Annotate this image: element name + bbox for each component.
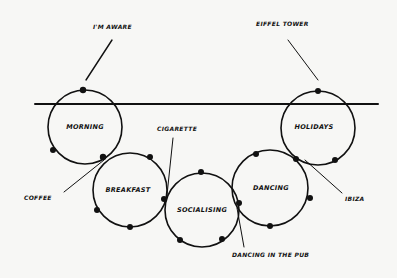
dancing-in-the-pub-label: DANCING IN THE PUB — [232, 251, 309, 258]
knot-icon — [94, 207, 100, 213]
coffee-pointer — [64, 160, 104, 192]
socialising-label: SOCIALISING — [177, 206, 228, 214]
breakfast-label: BREAKFAST — [106, 186, 151, 194]
dancing-label: DANCING — [253, 184, 289, 192]
knot-icon — [50, 147, 56, 153]
knot-icon — [100, 154, 106, 160]
coffee-label: COFFEE — [24, 194, 52, 201]
cigarette-label: CIGARETTE — [157, 125, 198, 132]
knot-icon — [127, 224, 133, 230]
ibiza-label: IBIZA — [345, 195, 365, 202]
knot-icon — [147, 154, 153, 160]
knot-icon — [236, 200, 242, 206]
morning-label: MORNING — [66, 123, 104, 131]
eiffel-tower-pointer — [288, 40, 318, 80]
diagram-canvas: MORNING BREAKFAST SOCIALISING DANCING HO… — [0, 0, 397, 278]
knot-icon — [161, 196, 167, 202]
knot-icon — [267, 223, 273, 229]
knot-icon — [80, 87, 86, 93]
im-aware-pointer — [86, 40, 112, 80]
knot-icon — [293, 156, 299, 162]
cigarette-pointer — [167, 138, 173, 195]
knot-icon — [253, 151, 259, 157]
eiffel-tower-label: EIFFEL TOWER — [256, 20, 309, 27]
knot-icon — [307, 195, 313, 201]
knot-icon — [332, 157, 338, 163]
knot-markers — [50, 87, 338, 243]
holidays-label: HOLIDAYS — [295, 123, 334, 131]
knot-icon — [219, 236, 225, 242]
knot-icon — [177, 237, 183, 243]
knot-icon — [315, 88, 321, 94]
im-aware-label: I'M AWARE — [93, 23, 133, 30]
knot-icon — [198, 169, 204, 175]
